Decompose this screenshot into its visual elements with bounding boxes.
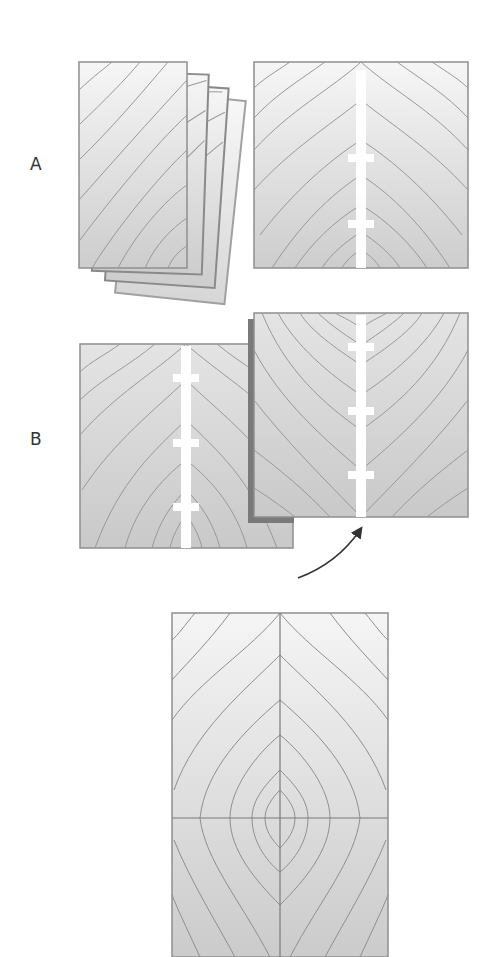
book-matching-diagram xyxy=(0,0,490,957)
result-bookmatched-panel xyxy=(172,613,388,957)
flip-arrow-icon xyxy=(298,530,360,578)
spline-crossbar xyxy=(173,374,199,382)
spline-crossbar xyxy=(348,154,374,162)
spline-crossbar xyxy=(348,220,374,228)
step-b-right-panel xyxy=(248,313,468,523)
spline-crossbar xyxy=(348,471,374,479)
step-a-board-stack xyxy=(79,62,246,304)
spline-crossbar xyxy=(348,343,374,351)
spline-crossbar xyxy=(173,439,199,447)
step-a-opened-panel xyxy=(254,62,468,268)
spline-crossbar xyxy=(348,407,374,415)
spline-crossbar xyxy=(173,503,199,511)
joint-strip xyxy=(356,70,366,268)
front-board xyxy=(79,62,187,268)
